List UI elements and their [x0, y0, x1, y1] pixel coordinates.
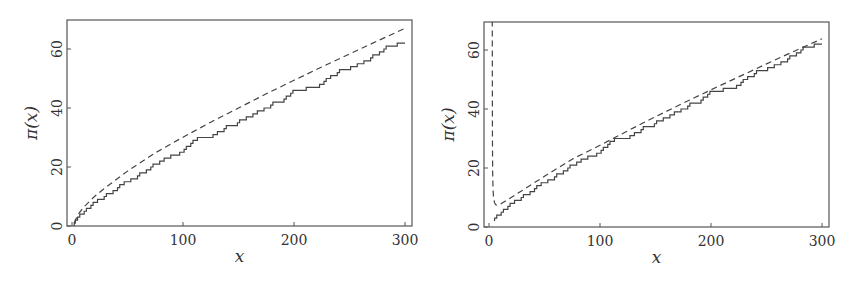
- y-tick-label: 0: [49, 222, 65, 231]
- pi-x-step-line: [495, 44, 822, 221]
- x-tick-label: 0: [485, 233, 494, 249]
- x-tick-label: 0: [68, 232, 77, 248]
- approximation-dashed-line: [74, 28, 405, 223]
- x-axis-label: x: [652, 247, 662, 267]
- y-tick-label: 0: [466, 223, 482, 232]
- y-tick-label: 40: [49, 99, 65, 117]
- y-tick-label: 40: [466, 100, 482, 118]
- x-tick-label: 300: [392, 232, 419, 248]
- pi-x-step-line: [74, 43, 405, 226]
- chart-right: 01002003000204060xπ(x): [426, 0, 852, 281]
- y-tick-label: 20: [49, 158, 65, 176]
- x-axis-label: x: [235, 246, 245, 266]
- y-axis-label: π(x): [438, 107, 458, 142]
- y-tick-label: 20: [466, 159, 482, 177]
- x-tick-label: 100: [170, 232, 197, 248]
- x-tick-label: 200: [281, 232, 308, 248]
- y-tick-label: 60: [49, 40, 65, 58]
- chart-left-svg: 01002003000204060xπ(x): [0, 0, 426, 281]
- chart-left: 01002003000204060xπ(x): [0, 0, 426, 281]
- x-tick-label: 100: [587, 233, 614, 249]
- approximation-dashed-line: [492, 21, 822, 206]
- y-tick-label: 60: [466, 41, 482, 59]
- x-tick-label: 200: [698, 233, 725, 249]
- x-tick-label: 300: [809, 233, 836, 249]
- chart-right-svg: 01002003000204060xπ(x): [426, 0, 852, 281]
- plot-frame: [484, 22, 829, 227]
- y-axis-label: π(x): [21, 106, 41, 141]
